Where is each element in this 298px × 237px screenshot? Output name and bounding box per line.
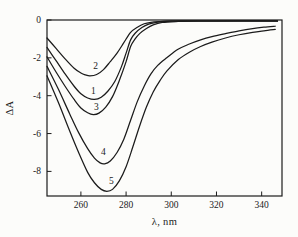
plot-frame	[47, 20, 282, 196]
curve-3	[47, 21, 277, 115]
curve-2	[47, 21, 277, 76]
x-tick-label-320: 320	[209, 200, 224, 210]
curve-5	[47, 29, 275, 191]
spectra-figure: 2602803003203400-2-4-6-812345 ΔA λ, nm	[0, 0, 298, 237]
y-tick-label-0: 0	[36, 15, 41, 25]
x-tick-label-340: 340	[255, 200, 270, 210]
y-tick-label--8: -8	[33, 166, 41, 176]
x-tick-label-260: 260	[74, 200, 89, 210]
curve-label-5: 5	[109, 176, 114, 186]
y-tick-label--4: -4	[33, 91, 41, 101]
curve-label-2: 2	[93, 61, 98, 71]
curve-label-1: 1	[91, 86, 96, 96]
y-tick-label--6: -6	[33, 129, 41, 139]
chart-canvas: 2602803003203400-2-4-6-812345	[0, 0, 298, 237]
x-tick-label-300: 300	[164, 200, 179, 210]
curve-label-3: 3	[94, 102, 99, 112]
curve-label-4: 4	[101, 147, 106, 157]
y-axis-label: ΔA	[3, 86, 17, 130]
x-tick-label-280: 280	[119, 200, 134, 210]
y-tick-label--2: -2	[33, 53, 41, 63]
curve-4	[47, 26, 275, 164]
x-axis-label: λ, nm	[47, 215, 282, 229]
curve-1	[47, 21, 277, 100]
